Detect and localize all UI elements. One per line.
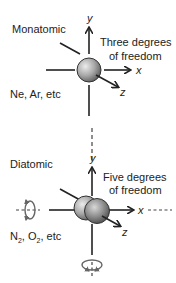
monatomic-freedom-line2: of freedom — [109, 50, 162, 62]
diatomic-freedom-line1: Five degrees — [103, 171, 167, 183]
z-axis-label: z — [121, 226, 128, 238]
z-axis-arrow — [96, 75, 118, 87]
monatomic-group: y x z Monatomic Three degrees of freedom… — [10, 12, 172, 116]
diatomic-freedom-line2: of freedom — [109, 184, 162, 196]
monatomic-freedom-line1: Three degrees — [100, 36, 172, 48]
y-axis-label: y — [89, 152, 97, 164]
atom-sphere — [77, 58, 101, 82]
atom-sphere-front — [85, 199, 110, 224]
diatomic-group: y x z Diatomic Five degrees of freedom N… — [10, 128, 172, 276]
diatomic-examples: N2, O2, etc — [10, 230, 62, 244]
monatomic-examples: Ne, Ar, etc — [10, 88, 61, 100]
z-axis-back — [60, 189, 80, 200]
degrees-of-freedom-diagram: y x z Monatomic Three degrees of freedom… — [0, 0, 176, 283]
x-axis-label: x — [137, 204, 144, 216]
z-axis-back — [60, 43, 80, 54]
rotation-y-icon — [82, 260, 102, 271]
x-axis-label: x — [135, 64, 142, 76]
z-axis-label: z — [119, 86, 126, 98]
y-axis-label: y — [86, 12, 94, 24]
monatomic-title: Monatomic — [12, 23, 66, 35]
diatomic-title: Diatomic — [10, 158, 53, 170]
